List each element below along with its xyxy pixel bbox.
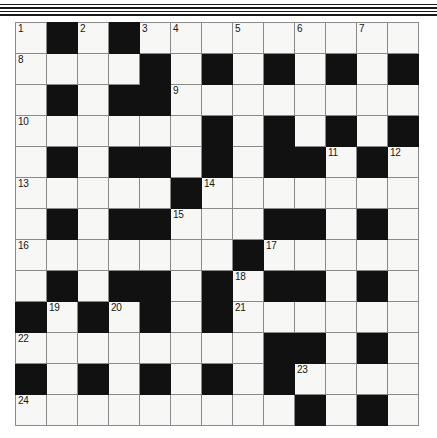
open-cell[interactable] [264,178,295,209]
open-cell[interactable] [171,395,202,426]
open-cell[interactable] [326,85,357,116]
open-cell[interactable] [357,302,388,333]
open-cell[interactable] [233,116,264,147]
open-cell[interactable] [326,271,357,302]
open-cell[interactable] [140,333,171,364]
open-cell[interactable] [295,302,326,333]
open-cell[interactable] [171,54,202,85]
open-cell[interactable] [233,147,264,178]
open-cell[interactable]: 13 [16,178,47,209]
open-cell[interactable] [233,209,264,240]
open-cell[interactable] [78,395,109,426]
open-cell[interactable] [78,271,109,302]
open-cell[interactable] [233,85,264,116]
open-cell[interactable] [233,178,264,209]
open-cell[interactable]: 9 [171,85,202,116]
open-cell[interactable]: 2 [78,23,109,54]
open-cell[interactable] [16,85,47,116]
open-cell[interactable] [202,240,233,271]
open-cell[interactable] [78,54,109,85]
open-cell[interactable] [388,209,419,240]
open-cell[interactable] [47,364,78,395]
open-cell[interactable]: 5 [233,23,264,54]
open-cell[interactable] [140,395,171,426]
open-cell[interactable] [171,333,202,364]
open-cell[interactable] [78,147,109,178]
open-cell[interactable] [295,178,326,209]
open-cell[interactable] [295,116,326,147]
open-cell[interactable] [357,178,388,209]
open-cell[interactable] [109,178,140,209]
open-cell[interactable] [295,240,326,271]
crossword-grid[interactable]: 123456789101112131415161718192021222324 [15,22,419,426]
open-cell[interactable] [78,240,109,271]
open-cell[interactable] [140,116,171,147]
open-cell[interactable]: 8 [16,54,47,85]
open-cell[interactable] [388,23,419,54]
open-cell[interactable] [357,116,388,147]
open-cell[interactable]: 11 [326,147,357,178]
open-cell[interactable] [109,395,140,426]
open-cell[interactable]: 20 [109,302,140,333]
open-cell[interactable] [109,116,140,147]
open-cell[interactable] [264,23,295,54]
open-cell[interactable]: 1 [16,23,47,54]
open-cell[interactable] [295,54,326,85]
open-cell[interactable] [264,395,295,426]
open-cell[interactable] [16,209,47,240]
open-cell[interactable] [171,116,202,147]
open-cell[interactable] [140,178,171,209]
open-cell[interactable] [171,240,202,271]
open-cell[interactable]: 15 [171,209,202,240]
open-cell[interactable] [388,364,419,395]
open-cell[interactable] [326,178,357,209]
open-cell[interactable]: 16 [16,240,47,271]
open-cell[interactable] [357,240,388,271]
open-cell[interactable]: 7 [357,23,388,54]
open-cell[interactable] [202,23,233,54]
open-cell[interactable] [326,395,357,426]
open-cell[interactable] [357,364,388,395]
open-cell[interactable] [233,395,264,426]
open-cell[interactable] [47,178,78,209]
open-cell[interactable]: 12 [388,147,419,178]
open-cell[interactable]: 21 [233,302,264,333]
open-cell[interactable]: 3 [140,23,171,54]
open-cell[interactable]: 24 [16,395,47,426]
open-cell[interactable] [202,395,233,426]
open-cell[interactable] [109,364,140,395]
open-cell[interactable] [47,116,78,147]
open-cell[interactable] [357,54,388,85]
open-cell[interactable] [357,85,388,116]
open-cell[interactable]: 18 [233,271,264,302]
open-cell[interactable] [47,395,78,426]
open-cell[interactable] [326,364,357,395]
open-cell[interactable] [388,240,419,271]
open-cell[interactable] [78,116,109,147]
open-cell[interactable] [16,271,47,302]
open-cell[interactable] [109,333,140,364]
open-cell[interactable] [233,333,264,364]
open-cell[interactable] [388,85,419,116]
open-cell[interactable] [171,147,202,178]
open-cell[interactable] [233,54,264,85]
open-cell[interactable]: 22 [16,333,47,364]
open-cell[interactable] [171,364,202,395]
open-cell[interactable] [326,240,357,271]
open-cell[interactable] [326,209,357,240]
open-cell[interactable] [47,54,78,85]
open-cell[interactable] [264,85,295,116]
open-cell[interactable]: 17 [264,240,295,271]
open-cell[interactable] [171,302,202,333]
open-cell[interactable] [78,178,109,209]
open-cell[interactable] [295,85,326,116]
open-cell[interactable] [16,147,47,178]
open-cell[interactable] [78,209,109,240]
open-cell[interactable] [202,333,233,364]
open-cell[interactable] [326,333,357,364]
open-cell[interactable]: 4 [171,23,202,54]
open-cell[interactable] [388,333,419,364]
open-cell[interactable] [202,85,233,116]
open-cell[interactable]: 19 [47,302,78,333]
open-cell[interactable] [47,333,78,364]
